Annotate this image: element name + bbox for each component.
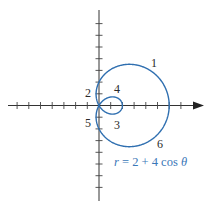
- equation-label: r = 2 + 4 cos θ: [114, 155, 187, 169]
- label-1: 1: [151, 56, 157, 70]
- equation-theta: θ: [181, 155, 187, 169]
- label-4: 4: [114, 82, 120, 96]
- label-5: 5: [85, 116, 91, 130]
- equation-body: = 2 + 4 cos: [119, 155, 181, 169]
- label-6: 6: [157, 137, 163, 151]
- label-3: 3: [114, 118, 120, 132]
- label-2: 2: [85, 86, 91, 100]
- x-axis-arrow-icon: [193, 102, 204, 110]
- polar-graph: 1 2 3 4 5 6 r = 2 + 4 cos θ: [0, 0, 211, 204]
